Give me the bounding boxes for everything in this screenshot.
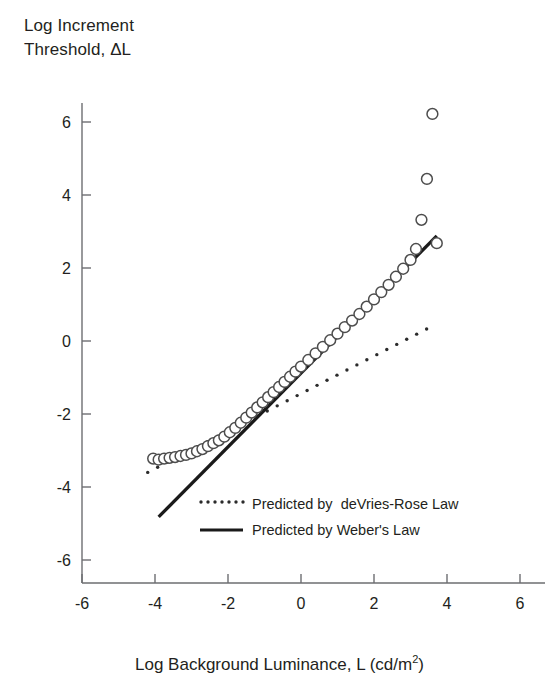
- data-point: [405, 255, 416, 266]
- legend-dot: [234, 500, 237, 503]
- data-point: [411, 244, 422, 255]
- data-point: [416, 214, 427, 225]
- legend-dot: [206, 500, 209, 503]
- legend-sample-group: [199, 500, 244, 530]
- x-axis-title: Log Background Luminance, L (cd/m2): [0, 655, 559, 675]
- data-point: [422, 174, 433, 185]
- x-tick-label: 0: [297, 595, 306, 612]
- y-tick-label: 6: [62, 114, 71, 131]
- devries-rose-dot: [405, 338, 408, 341]
- x-axis-title-main: Log Background Luminance, L (cd/m: [135, 655, 412, 674]
- devries-rose-dot: [365, 358, 368, 361]
- devries-rose-dot: [345, 368, 348, 371]
- legend-dot: [199, 500, 202, 503]
- devries-rose-dot: [285, 399, 288, 402]
- figure-container: Log IncrementThreshold, ΔL 6420-2-4-6 -6…: [0, 0, 559, 698]
- devries-rose-dot: [425, 327, 428, 330]
- plot-svg: 6420-2-4-6 -6-4-20246: [0, 0, 559, 698]
- x-tick-label: -6: [75, 595, 89, 612]
- data-point: [427, 109, 438, 120]
- y-tick-label: -6: [57, 552, 71, 569]
- devries-rose-dot: [355, 363, 358, 366]
- devries-rose-dot: [305, 389, 308, 392]
- legend-dot: [213, 500, 216, 503]
- devries-rose-dot: [156, 466, 159, 469]
- devries-rose-dot: [315, 384, 318, 387]
- x-tick-label: -2: [221, 595, 235, 612]
- legend-dot: [220, 500, 223, 503]
- x-tick-label: -4: [148, 595, 162, 612]
- devries-rose-dot: [385, 348, 388, 351]
- legend-label-devries-rose: Predicted by deVries-Rose Law: [252, 496, 459, 512]
- devries-rose-dot: [295, 394, 298, 397]
- devries-rose-dot: [375, 353, 378, 356]
- y-tick-label: 0: [62, 333, 71, 350]
- legend-dot: [241, 500, 244, 503]
- x-tick-label: 2: [370, 595, 379, 612]
- devries-rose-dot: [325, 379, 328, 382]
- legend-label-weber: Predicted by Weber's Law: [252, 522, 420, 538]
- devries-rose-dot: [335, 373, 338, 376]
- devries-rose-dot: [415, 332, 418, 335]
- x-tick-group: -6-4-20246: [75, 574, 525, 612]
- x-tick-label: 6: [516, 595, 525, 612]
- y-tick-label: 4: [62, 187, 71, 204]
- y-tick-label: -4: [57, 479, 71, 496]
- legend-dot: [227, 500, 230, 503]
- data-point-group: [148, 109, 442, 465]
- y-tick-group: 6420-2-4-6: [57, 114, 91, 569]
- x-axis-title-end: ): [418, 655, 424, 674]
- legend-dotted-sample: [199, 500, 244, 503]
- data-point: [431, 238, 442, 249]
- devries-rose-dot: [146, 471, 149, 474]
- y-tick-label: -2: [57, 406, 71, 423]
- x-tick-label: 4: [443, 595, 452, 612]
- devries-rose-dot: [275, 404, 278, 407]
- y-tick-label: 2: [62, 260, 71, 277]
- devries-rose-dot: [395, 343, 398, 346]
